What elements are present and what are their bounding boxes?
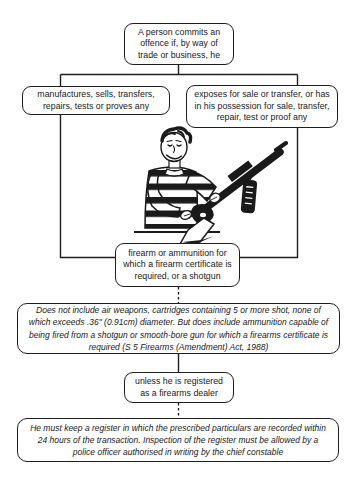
node-start: A person commits an offence if, by way o… xyxy=(124,23,234,65)
node-start-label: A person commits an offence if, by way o… xyxy=(131,27,227,62)
node-definition-note-label: Does not include air weapons, cartridges… xyxy=(27,304,330,353)
node-branch-right: exposes for sale or transfer, or has in … xyxy=(186,85,338,128)
node-object: firearm or ammunition for which a firear… xyxy=(115,243,240,287)
flowchart: A person commits an offence if, by way o… xyxy=(0,0,354,488)
node-exception-label: unless he is registered as a firearms de… xyxy=(131,376,227,399)
node-branch-right-label: exposes for sale or transfer, or has in … xyxy=(193,89,331,124)
node-branch-left-label: manufactures, sells, transfers, repairs,… xyxy=(29,89,163,112)
node-exception: unless he is registered as a firearms de… xyxy=(124,372,234,403)
man-with-rifle-illustration xyxy=(118,124,288,244)
node-register-note-label: He must keep a register in which the pre… xyxy=(27,422,329,459)
node-object-label: firearm or ammunition for which a firear… xyxy=(122,248,233,283)
node-register-note: He must keep a register in which the pre… xyxy=(17,418,339,462)
node-definition-note: Does not include air weapons, cartridges… xyxy=(17,303,340,354)
node-branch-left: manufactures, sells, transfers, repairs,… xyxy=(22,86,170,115)
